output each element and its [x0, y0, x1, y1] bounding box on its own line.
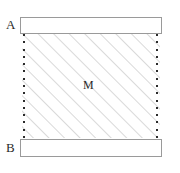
boundary-dot [156, 121, 158, 123]
top-plate-label: A [6, 18, 15, 31]
boundary-dot [156, 63, 158, 65]
top-plate [20, 17, 162, 34]
boundary-dot [156, 41, 158, 43]
boundary-dot [156, 34, 158, 36]
boundary-dot [156, 107, 158, 109]
boundary-dot [23, 121, 25, 123]
boundary-dot [23, 114, 25, 116]
membrane-diagram: A M [0, 0, 180, 173]
boundary-dot [156, 100, 158, 102]
boundary-dot [23, 78, 25, 80]
boundary-dot [156, 49, 158, 51]
boundary-dot [156, 85, 158, 87]
boundary-dot [156, 136, 158, 138]
boundary-dot [156, 129, 158, 131]
boundary-dot [156, 56, 158, 58]
bottom-plate [20, 139, 162, 157]
boundary-dot [23, 107, 25, 109]
boundary-dot [156, 70, 158, 72]
boundary-dot [23, 70, 25, 72]
bottom-plate-label: B [6, 141, 15, 154]
boundary-dot [23, 129, 25, 131]
boundary-dot [23, 100, 25, 102]
left-dotted-boundary [22, 34, 26, 138]
right-dotted-boundary [155, 34, 159, 138]
boundary-dot [23, 34, 25, 36]
boundary-dot [23, 63, 25, 65]
membrane-label: M [83, 79, 94, 91]
boundary-dot [23, 136, 25, 138]
boundary-dot [156, 78, 158, 80]
boundary-dot [23, 92, 25, 94]
boundary-dot [23, 49, 25, 51]
boundary-dot [156, 114, 158, 116]
boundary-dot [156, 92, 158, 94]
boundary-dot [23, 56, 25, 58]
boundary-dot [23, 41, 25, 43]
boundary-dot [23, 85, 25, 87]
